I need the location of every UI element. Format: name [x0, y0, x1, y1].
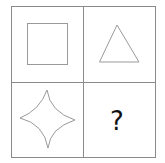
cell-top-right	[100, 25, 140, 62]
puzzle-grid	[0, 0, 165, 163]
square-shape	[28, 24, 68, 65]
question-mark: ?	[104, 104, 130, 138]
grid-lines	[12, 7, 156, 158]
concave-star-shape	[20, 90, 75, 148]
cell-top-left	[28, 24, 68, 65]
cell-bottom-left	[20, 90, 75, 148]
triangle-shape	[100, 25, 140, 62]
